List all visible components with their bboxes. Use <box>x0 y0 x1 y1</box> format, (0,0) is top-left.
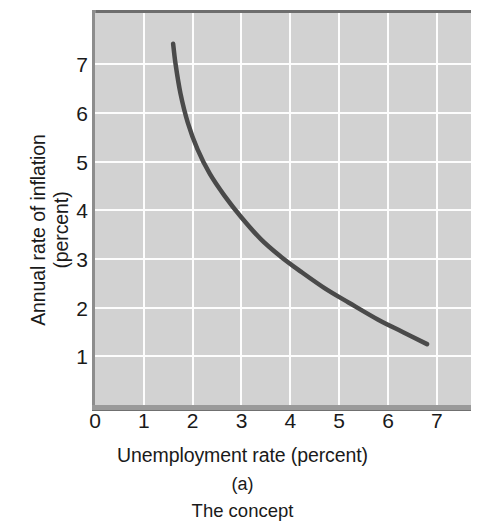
phillips-curve-line <box>95 13 471 405</box>
x-tick-label-4: 4 <box>277 410 303 431</box>
y-tick-label-2: 2 <box>64 297 88 318</box>
x-tick-label-2: 2 <box>180 410 206 431</box>
y-tick-label-1: 1 <box>64 346 88 367</box>
phillips-curve-figure: Annual rate of inflation (percent) 12345… <box>0 0 485 528</box>
panel-letter: (a) <box>0 474 485 495</box>
y-tick-label-7: 7 <box>64 54 88 75</box>
x-axis-tick-labels: 01234567 <box>0 410 485 436</box>
plot-frame <box>92 10 471 408</box>
y-tick-label-3: 3 <box>64 248 88 269</box>
x-tick-label-7: 7 <box>424 410 450 431</box>
x-tick-label-5: 5 <box>326 410 352 431</box>
plot-area <box>95 13 471 405</box>
x-tick-label-3: 3 <box>228 410 254 431</box>
y-tick-label-6: 6 <box>64 102 88 123</box>
x-tick-label-0: 0 <box>82 410 108 431</box>
y-tick-label-5: 5 <box>64 151 88 172</box>
x-tick-label-1: 1 <box>131 410 157 431</box>
x-tick-label-6: 6 <box>375 410 401 431</box>
y-tick-label-4: 4 <box>64 200 88 221</box>
x-axis-title: Unemployment rate (percent) <box>0 444 485 467</box>
panel-caption: The concept <box>0 500 485 522</box>
y-axis-title-line1: Annual rate of inflation <box>27 134 50 326</box>
